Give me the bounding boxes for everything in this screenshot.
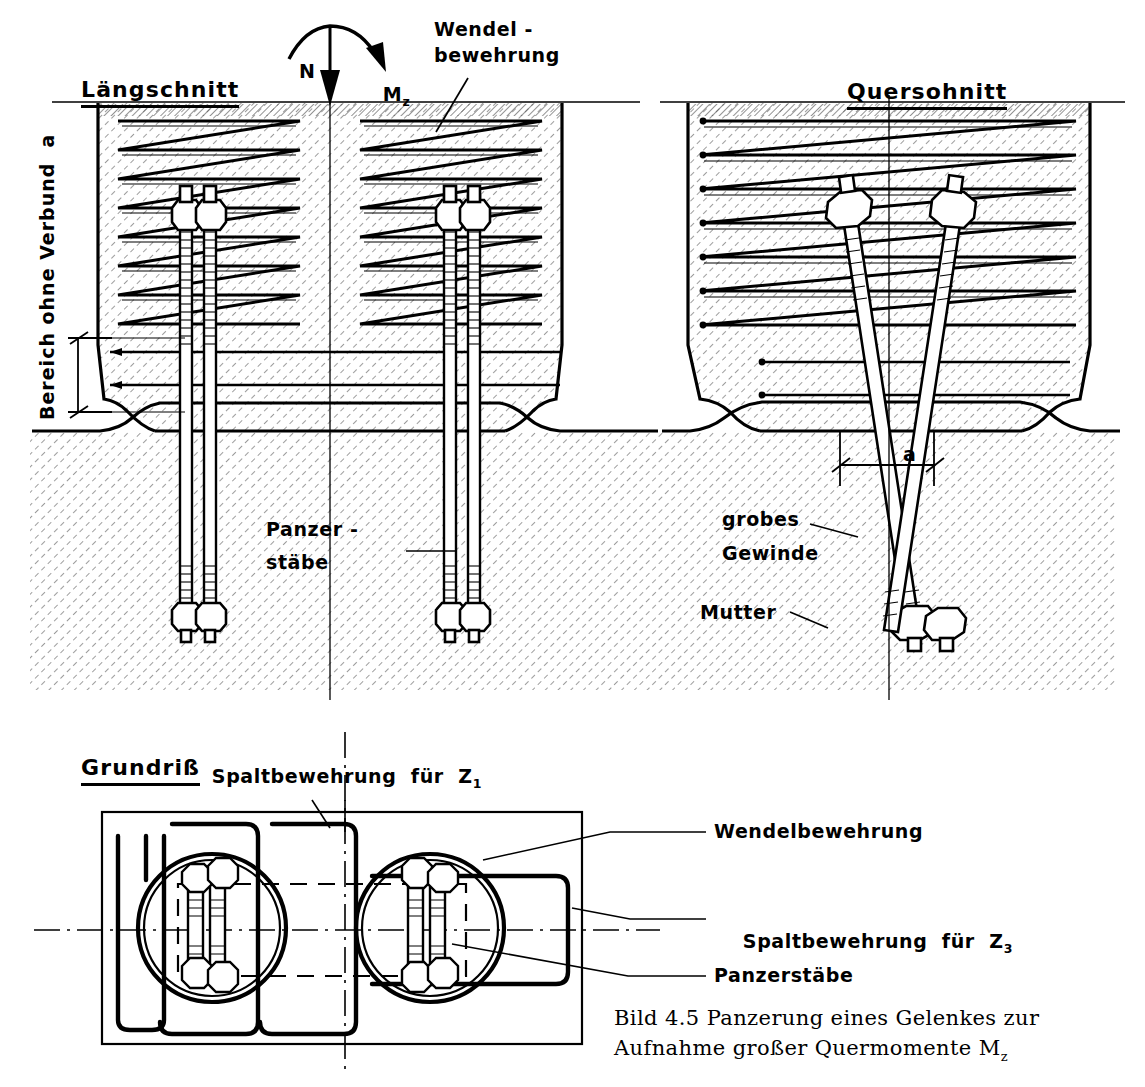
spaltbewehrung-z1-label: Spaltbewehrung für Z1 — [183, 742, 482, 815]
axial-force-arrow — [320, 28, 340, 106]
panzerstaebe-plan-label: Panzerstäbe — [714, 964, 853, 987]
cross-section-title: Quersohnitt — [812, 54, 1007, 135]
caption-line-1: Bild 4.5 Panzerung eines Gelenkes zur — [614, 1003, 1134, 1033]
plan-outline — [102, 812, 582, 1044]
plan-armour-bars-left — [182, 858, 238, 992]
figure-caption: Bild 4.5 Panzerung eines Gelenkes zur Au… — [614, 1003, 1134, 1067]
plan-section-title: Grundriß — [46, 730, 200, 811]
grobes-label: grobes — [722, 508, 799, 531]
moment-label: Mz — [354, 60, 410, 133]
longitudinal-section-title: Längschnitt — [46, 52, 239, 133]
wendelbewehrung-label-line2: bewehrung — [434, 44, 560, 67]
plan-armour-bars-right — [402, 858, 458, 992]
figure-page: Längschnitt Quersohnitt Grundriß N Mz We… — [0, 0, 1145, 1087]
longitudinal-base-fill — [30, 431, 670, 693]
panzerstaebe-label-line2: stäbe — [266, 551, 329, 574]
wendelbewehrung-plan-leader — [483, 832, 706, 860]
caption-line-2: Aufnahme großer Quermomente Mz — [614, 1033, 1134, 1067]
wendelbewehrung-label-line1: Wendel - — [434, 18, 533, 41]
panzerstaebe-label-line1: Panzer - — [266, 518, 358, 541]
mutter-label: Mutter — [700, 601, 776, 624]
bereich-ohne-verbund-label: Bereich ohne Verbund a — [36, 134, 58, 420]
plan-leader-lines — [312, 800, 706, 976]
wendelbewehrung-plan-label: Wendelbewehrung — [714, 820, 923, 843]
dimension-a-label: a — [903, 443, 916, 466]
gewinde-label: Gewinde — [722, 542, 819, 565]
axial-force-label: N — [299, 60, 316, 83]
spalt-z3-plan-leader — [572, 908, 706, 919]
